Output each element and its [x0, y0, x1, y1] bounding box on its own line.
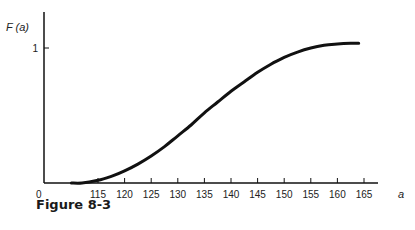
x-tick-label: 130: [169, 189, 186, 200]
cdf-curve: [71, 43, 358, 183]
x-tick-label: 145: [249, 189, 266, 200]
figure-caption: Figure 8-3: [36, 197, 111, 212]
y-tick-label: 1: [32, 43, 38, 54]
cdf-chart: 1 115120125130135140145150155160165 F (a…: [0, 0, 415, 230]
x-tick-label: 135: [196, 189, 213, 200]
x-ticks: 115120125130135140145150155160165: [90, 178, 373, 200]
y-ticks: 1: [32, 43, 49, 54]
x-tick-label: 155: [302, 189, 319, 200]
x-tick-label: 150: [276, 189, 293, 200]
y-axis-label: F (a): [6, 21, 29, 33]
x-tick-label: 120: [116, 189, 133, 200]
x-tick-label: 160: [329, 189, 346, 200]
x-tick-label: 125: [143, 189, 160, 200]
x-tick-label: 140: [223, 189, 240, 200]
x-axis-label: a: [398, 188, 404, 200]
x-tick-label: 165: [356, 189, 373, 200]
